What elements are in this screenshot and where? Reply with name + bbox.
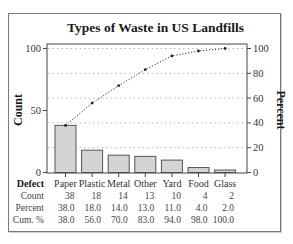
cumulative-point [144, 68, 147, 71]
table-cell: 11.0 [165, 203, 182, 213]
table-cell: 14 [118, 191, 128, 201]
cumulative-point [197, 50, 200, 53]
y2-tick-label: 20 [253, 142, 264, 153]
table-cell: 18.0 [84, 203, 101, 213]
bars [55, 125, 236, 172]
category-label: Other [134, 178, 157, 189]
table-cell: 13.0 [138, 203, 155, 213]
bar-other [135, 156, 156, 172]
table-row-label: Count [21, 191, 45, 201]
table-cell: 100.0 [213, 215, 235, 225]
table-row-label: Cum. % [13, 215, 44, 225]
table-cell: 56.0 [84, 215, 101, 225]
category-label: Glass [214, 178, 236, 189]
y2-tick-label: 40 [253, 117, 264, 128]
table-cell: 4 [203, 191, 208, 201]
gridlines [48, 49, 246, 148]
bar-paper [55, 125, 76, 172]
category-label: Metal [107, 178, 131, 189]
category-label: Yard [162, 178, 181, 189]
bar-plastic [82, 150, 103, 172]
table-cell: 38.0 [58, 215, 75, 225]
table-cell: 70.0 [111, 215, 128, 225]
cumulative-line [66, 49, 226, 126]
category-label: Plastic [79, 178, 106, 189]
plot-area [47, 44, 247, 173]
table-cell: 13 [145, 191, 155, 201]
y-tick-label: 50 [31, 105, 42, 116]
bar-yard [161, 160, 182, 172]
y2-tick-label: 60 [253, 93, 264, 104]
y2-tick-label: 100 [253, 43, 269, 54]
y2-axis-title: Percent [274, 90, 288, 129]
table-cell: 94.0 [164, 215, 181, 225]
table-cell: 98.0 [191, 215, 208, 225]
table-header-label: Defect [17, 178, 45, 189]
cumulative-point [171, 55, 174, 58]
table-cell: 38 [65, 191, 75, 201]
table-cell: 2.0 [222, 203, 234, 213]
y2-tick-label: 80 [253, 68, 264, 79]
table-cell: 14.0 [111, 203, 128, 213]
cumulative-point [91, 102, 94, 105]
y2-tick-label: 0 [253, 167, 258, 178]
y-tick-label: 100 [25, 43, 41, 54]
cumulative-point [117, 84, 120, 87]
data-table: DefectPaperPlasticMetalOtherYardFoodGlas… [13, 178, 236, 225]
table-cell: 4.0 [196, 203, 208, 213]
table-cell: 83.0 [138, 215, 155, 225]
bar-glass [215, 170, 236, 172]
left-y-axis: 050100 [25, 43, 47, 178]
category-label: Food [188, 178, 209, 189]
table-cell: 10 [171, 191, 181, 201]
cumulative-percent-line [64, 47, 226, 127]
cumulative-point [64, 124, 67, 127]
y-axis-title: Count [11, 94, 25, 126]
cumulative-point [224, 47, 227, 50]
table-cell: 38.0 [58, 203, 75, 213]
category-label: Paper [54, 178, 77, 189]
bar-food [188, 168, 209, 173]
right-y-axis: 020406080100 [247, 43, 269, 178]
table-cell: 18 [92, 191, 102, 201]
pareto-chart: 050100 020406080100 Count Percent Defect… [0, 0, 293, 244]
table-row-label: Percent [16, 203, 45, 213]
bar-metal [108, 155, 129, 172]
x-axis-ticks [66, 173, 226, 177]
y-tick-label: 0 [36, 167, 41, 178]
table-cell: 2 [229, 191, 234, 201]
